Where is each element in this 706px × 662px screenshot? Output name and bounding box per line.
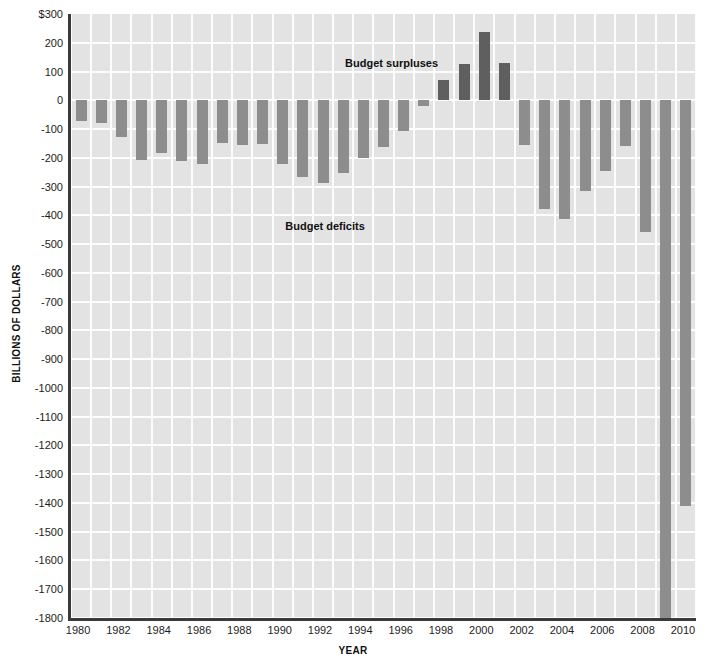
y-axis-tick-label: -200 (3, 152, 63, 163)
y-axis-tick-label: -400 (3, 210, 63, 221)
y-axis-tick-label: -300 (3, 181, 63, 192)
plot-area: Budget surplusesBudget deficits (68, 14, 696, 621)
y-axis-title: BILLIONS OF DOLLARS (11, 259, 22, 389)
y-axis-tick-label: $300 (3, 9, 63, 20)
annotation-group: Budget surplusesBudget deficits (71, 14, 696, 618)
y-axis-tick-label: -1600 (3, 555, 63, 566)
y-axis-tick-label: -1700 (3, 584, 63, 595)
y-axis-tick-label: -1500 (3, 526, 63, 537)
y-axis-tick-label: 100 (3, 66, 63, 77)
y-axis-tick-group: $3002001000-100-200-300-400-500-600-700-… (0, 0, 63, 662)
annotation-budget-surpluses: Budget surpluses (345, 57, 438, 69)
x-axis-tick-group: 1980198219841986198819901992199419961998… (0, 624, 706, 642)
x-axis-title: YEAR (0, 645, 706, 656)
annotation-budget-deficits: Budget deficits (285, 220, 364, 232)
y-axis-tick-label: -1300 (3, 469, 63, 480)
y-axis-tick-label: -1800 (3, 613, 63, 624)
budget-deficit-chart: $3002001000-100-200-300-400-500-600-700-… (0, 0, 706, 662)
y-axis-tick-label: -1200 (3, 440, 63, 451)
y-axis-tick-label: 200 (3, 37, 63, 48)
y-axis-tick-label: -500 (3, 239, 63, 250)
y-axis-tick-label: -100 (3, 124, 63, 135)
y-axis-tick-label: -1400 (3, 497, 63, 508)
x-axis-tick-label: 2010 (659, 624, 706, 636)
y-axis-tick-label: -1100 (3, 411, 63, 422)
y-axis-tick-label: 0 (3, 95, 63, 106)
